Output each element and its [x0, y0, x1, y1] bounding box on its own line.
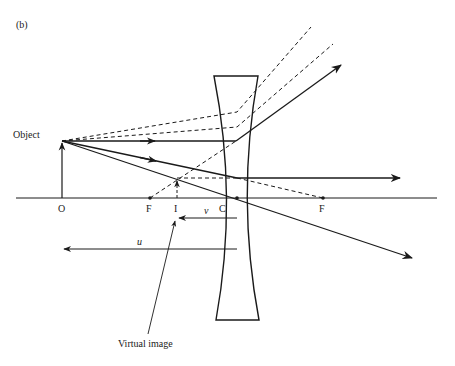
- virtual-image-pointer: [148, 221, 175, 334]
- label-object-distance: u: [137, 236, 142, 247]
- label-image-point: I: [174, 203, 177, 214]
- label-focus-left: F: [146, 203, 152, 214]
- label-center: C: [219, 203, 226, 214]
- ray-diagram: (b) O F I C F Object v u Virtual image: [0, 0, 455, 366]
- dashed-ray-1: [62, 27, 311, 141]
- label-object: Object: [13, 129, 40, 140]
- center-point: [235, 196, 239, 200]
- focus-left-point: [148, 196, 152, 200]
- label-virtual-image: Virtual image: [118, 338, 173, 349]
- focus-right-point: [321, 196, 325, 200]
- dashed-ray-2: [62, 44, 333, 141]
- label-image-distance: v: [204, 205, 209, 216]
- ray-focal-extension: [237, 178, 323, 198]
- ray-focal-direction-arrow: [140, 158, 156, 162]
- panel-label: (b): [16, 19, 28, 31]
- label-origin: O: [58, 203, 65, 214]
- ray-parallel-virtual-extension: [150, 141, 236, 198]
- label-focus-right: F: [319, 203, 325, 214]
